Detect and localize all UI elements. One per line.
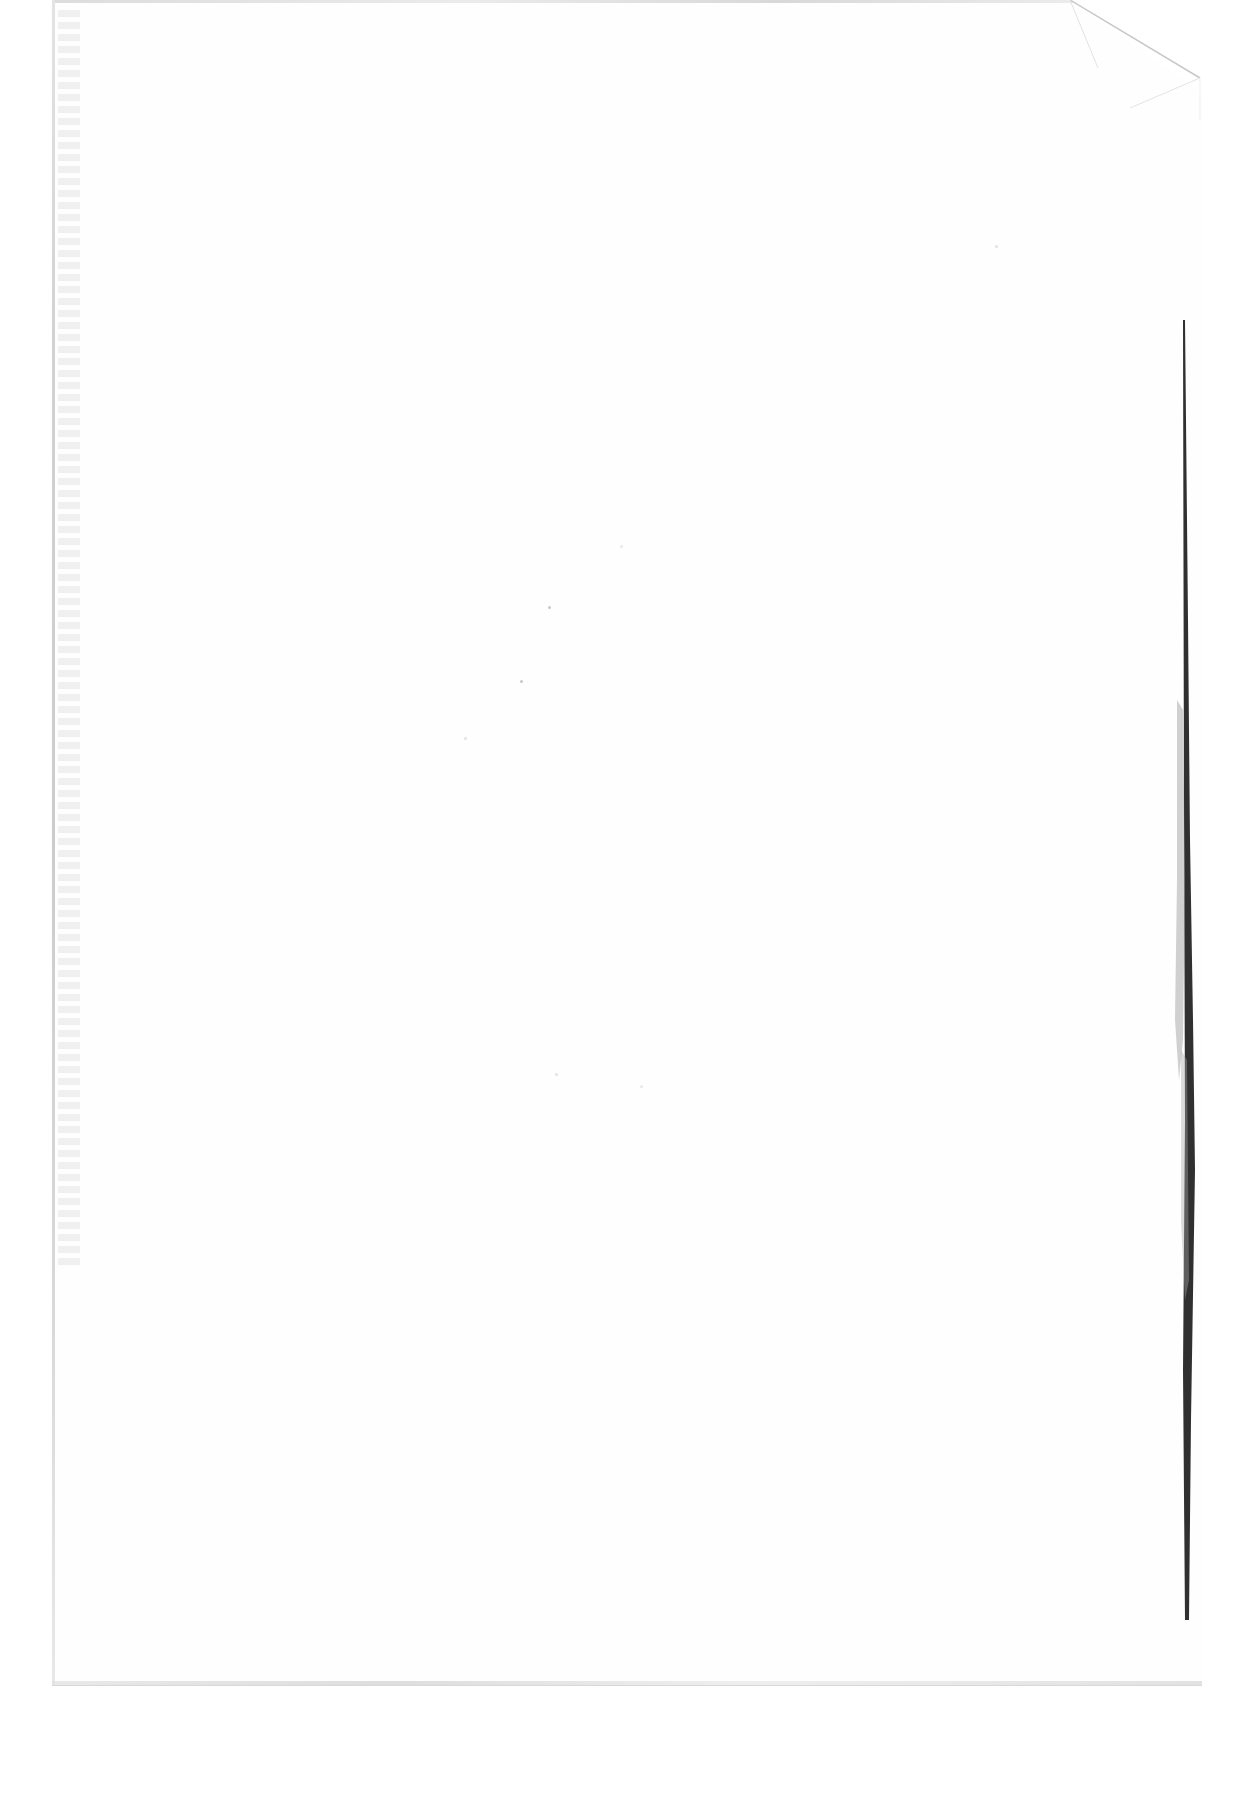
scan-canvas [0, 0, 1234, 1798]
dust-speck [620, 545, 623, 548]
page-top-edge [52, 0, 1092, 3]
page-left-edge [52, 0, 55, 1685]
dust-speck [548, 606, 551, 609]
dust-speck [640, 1085, 643, 1088]
dust-speck [555, 1073, 558, 1076]
dust-speck [995, 245, 998, 248]
binding-shadow [1175, 320, 1215, 1620]
folded-corner-icon [1070, 0, 1234, 120]
blank-page [52, 0, 1202, 1685]
bleed-through-text [58, 10, 80, 1270]
dust-speck [464, 737, 467, 740]
page-bottom-edge [52, 1681, 1202, 1685]
dust-speck [520, 680, 523, 683]
